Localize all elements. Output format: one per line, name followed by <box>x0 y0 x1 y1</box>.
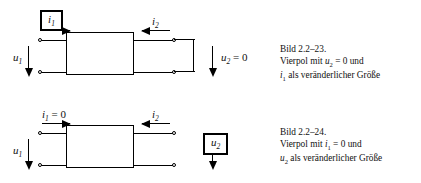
label-output-current-i2: i2 <box>152 16 159 30</box>
voltage-arrow-u1 <box>28 46 29 68</box>
figure-two-port-networks: i1 i2 u1 u2 = 0 Bild 2.2–23. Vierpol mit… <box>0 0 421 183</box>
terminal-input-top <box>38 38 42 42</box>
current-arrow-i1 <box>42 30 70 31</box>
caption-line-3: i1 als veränderlicher Größe <box>280 70 421 84</box>
caption-bild-2-2-23: Bild 2.2–23. Vierpol mit u2 = 0 und i1 a… <box>280 44 421 85</box>
caption-line-1: Bild 2.2–23. <box>280 44 421 56</box>
label-output-current-i2: i2 <box>152 109 159 123</box>
highlighted-symbol-box-i1: i1 <box>40 10 63 31</box>
label-output-voltage-u2: u2 = 0 <box>221 52 247 66</box>
arrowhead-icon <box>25 161 33 170</box>
lead-output-bottom <box>133 72 174 73</box>
current-arrow-i1 <box>42 123 70 124</box>
output-short-circuit-wire <box>193 40 194 72</box>
two-port-network-box <box>66 32 134 75</box>
terminal-input-bottom <box>38 163 42 167</box>
lead-input-bottom <box>41 72 67 73</box>
voltage-arrow-u2 <box>212 46 213 68</box>
label-input-voltage-u1: u1 <box>13 145 22 159</box>
highlighted-symbol-box-u2: u2 <box>203 133 228 155</box>
caption-line-1: Bild 2.2–24. <box>280 127 421 139</box>
label-output-voltage-boxed: u2 <box>211 137 220 151</box>
terminal-input-top <box>38 131 42 135</box>
lead-input-bottom <box>41 165 67 166</box>
caption-bild-2-2-24: Bild 2.2–24. Vierpol mit i1 = 0 und u2 a… <box>280 127 421 168</box>
arrowhead-icon <box>141 27 150 35</box>
label-input-voltage-u1: u1 <box>13 52 22 66</box>
arrowhead-icon <box>141 120 150 128</box>
caption-line-2: Vierpol mit i1 = 0 und <box>280 139 421 153</box>
lead-output-top <box>133 133 174 134</box>
terminal-input-bottom <box>38 70 42 74</box>
current-arrow-i2 <box>142 30 170 31</box>
lead-input-top <box>41 40 67 41</box>
terminal-output-top <box>172 131 176 135</box>
lead-input-top <box>41 133 67 134</box>
arrowhead-icon <box>209 161 217 170</box>
arrowhead-icon <box>209 68 217 77</box>
voltage-arrow-u1 <box>28 139 29 161</box>
arrowhead-icon <box>25 68 33 77</box>
lead-output-top <box>133 40 174 41</box>
lead-output-bottom <box>133 165 174 166</box>
circuit-diagram-bild-2-2-24: i1 = 0 i2 u1 u2 <box>0 95 280 183</box>
caption-line-2: Vierpol mit u2 = 0 und <box>280 56 421 70</box>
two-port-network-box <box>66 125 134 168</box>
terminal-output-bottom <box>172 163 176 167</box>
label-input-current-boxed: i1 <box>48 14 55 28</box>
caption-line-3: u2 als veränderlicher Größe <box>280 153 421 167</box>
current-arrow-i2 <box>142 123 170 124</box>
circuit-diagram-bild-2-2-23: i1 i2 u1 u2 = 0 <box>0 2 280 90</box>
